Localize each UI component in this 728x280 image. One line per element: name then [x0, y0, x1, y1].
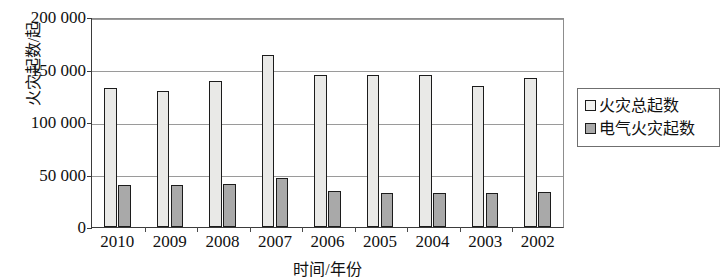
y-axis-tick: [87, 176, 92, 177]
y-axis-tick-label: 50 000: [0, 167, 86, 184]
chart-legend: 火灾总起数电气火灾起数: [577, 88, 720, 147]
y-axis-tick-labels: 050 000100 000150 000200 000: [0, 0, 86, 280]
y-axis-tick-label: 0: [0, 219, 86, 236]
legend-swatch-icon: [585, 123, 596, 134]
x-axis-tick-label: 2002: [511, 233, 564, 251]
y-axis-tick: [87, 71, 92, 72]
bar-electrical-fires-2010: [118, 185, 131, 227]
bar-electrical-fires-2003: [486, 193, 499, 227]
bar-electrical-fires-2008: [223, 184, 236, 227]
x-axis-tick: [302, 227, 303, 232]
x-axis-tick-label: 2003: [459, 233, 512, 251]
x-axis-tick-label: 2006: [301, 233, 354, 251]
x-axis-tick-label: 2005: [354, 233, 407, 251]
gridline: [92, 19, 563, 20]
bar-total-fires-2005: [367, 75, 380, 227]
bar-total-fires-2010: [104, 88, 117, 227]
bar-total-fires-2003: [472, 86, 485, 227]
plot-area: [91, 18, 564, 228]
x-axis-title: 时间/年份: [91, 256, 564, 280]
x-axis-tick: [460, 227, 461, 232]
x-axis-tick: [197, 227, 198, 232]
x-axis-tick-label: 2010: [91, 233, 144, 251]
gridline: [92, 71, 563, 72]
legend-label: 电气火灾起数: [599, 121, 695, 137]
x-axis-tick-label: 2004: [406, 233, 459, 251]
legend-label: 火灾总起数: [599, 98, 679, 114]
legend-item-total-fires: 火灾总起数: [585, 94, 713, 117]
legend-item-electrical-fires: 电气火灾起数: [585, 117, 713, 140]
x-axis-tick-label: 2007: [249, 233, 302, 251]
x-axis-tick-label: 2009: [144, 233, 197, 251]
bar-electrical-fires-2009: [171, 185, 184, 227]
bar-total-fires-2004: [419, 75, 432, 227]
bar-total-fires-2009: [157, 91, 170, 228]
bar-electrical-fires-2005: [381, 193, 394, 227]
bar-total-fires-2002: [524, 78, 537, 227]
bar-total-fires-2008: [209, 81, 222, 227]
x-axis-tick: [512, 227, 513, 232]
x-axis-tick: [355, 227, 356, 232]
x-axis-tick: [250, 227, 251, 232]
bar-electrical-fires-2002: [538, 192, 551, 227]
bar-electrical-fires-2006: [328, 191, 341, 227]
bar-total-fires-2007: [262, 55, 275, 227]
y-axis-tick-label: 200 000: [0, 9, 86, 26]
bar-total-fires-2006: [314, 75, 327, 227]
legend-swatch-icon: [585, 100, 596, 111]
bar-chart: 火灾起数/起 050 000100 000150 000200 000 2010…: [0, 0, 728, 280]
y-axis-tick: [87, 228, 92, 229]
x-axis-tick: [145, 227, 146, 232]
x-axis-tick-label: 2008: [196, 233, 249, 251]
x-axis-tick: [407, 227, 408, 232]
bar-electrical-fires-2007: [276, 178, 289, 227]
y-axis-tick: [87, 18, 92, 19]
y-axis-tick-label: 100 000: [0, 114, 86, 131]
y-axis-tick-label: 150 000: [0, 62, 86, 79]
bar-electrical-fires-2004: [433, 193, 446, 227]
y-axis-tick: [87, 123, 92, 124]
